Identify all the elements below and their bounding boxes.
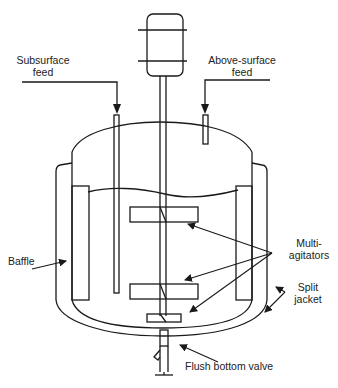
agitator-middle [130, 284, 198, 299]
vessel [72, 122, 252, 328]
agitator-shaft [160, 76, 166, 316]
label-line: feed [203, 66, 281, 78]
label-line: Subsurface [14, 54, 72, 66]
label-baffle: Baffle [8, 255, 35, 267]
label-split-jacket: Split jacket [290, 281, 326, 305]
agitator-bottom [147, 314, 181, 322]
flush-bottom-valve [154, 330, 173, 375]
label-subsurface-feed: Subsurface feed [14, 54, 72, 78]
label-line: Above-surface [203, 54, 281, 66]
label-flush-bottom-valve: Flush bottom valve [185, 360, 273, 372]
label-multi-agitators: Multi- agitators [283, 237, 335, 261]
label-line: Multi- [283, 237, 335, 249]
motor [138, 14, 187, 76]
above-surface-feed-line [201, 80, 270, 144]
label-line: Baffle [8, 255, 35, 267]
agitator-top [130, 207, 198, 222]
label-line: feed [14, 66, 72, 78]
annotation-arrows [32, 224, 285, 362]
label-line: jacket [290, 293, 326, 305]
label-above-surface-feed: Above-surface feed [203, 54, 281, 78]
label-line: agitators [283, 249, 335, 261]
label-line: Split [290, 281, 326, 293]
baffle-left [72, 186, 89, 300]
label-line: Flush bottom valve [185, 360, 273, 372]
